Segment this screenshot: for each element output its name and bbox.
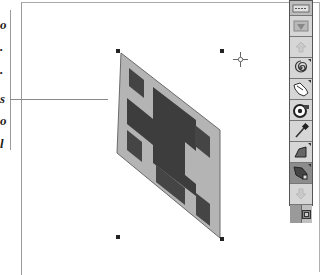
- camera-icon: [292, 102, 310, 118]
- submenu-indicator: [308, 80, 311, 83]
- scroll-down-tool[interactable]: [290, 184, 312, 205]
- submenu-indicator: [308, 59, 311, 62]
- submenu-indicator: [308, 164, 311, 167]
- lasso-select-icon: [293, 19, 309, 33]
- palette-title-icon: [290, 2, 312, 15]
- arrow-up-icon: [294, 40, 308, 54]
- swap-colors-icon: [302, 210, 311, 219]
- shape-icon: [293, 145, 309, 159]
- selection-handle-bottom-right[interactable]: [220, 237, 224, 241]
- selection-handle-bottom-left[interactable]: [116, 235, 120, 239]
- color-swatches[interactable]: [290, 205, 312, 223]
- eyedropper-tool[interactable]: [290, 121, 312, 142]
- palette-header[interactable]: [290, 1, 312, 16]
- lasso-select-tool[interactable]: [290, 16, 312, 37]
- distort-tool[interactable]: [290, 163, 312, 184]
- selection-handle-top-right[interactable]: [220, 49, 224, 53]
- foreground-color-swatch[interactable]: [290, 205, 302, 223]
- spiral-tool[interactable]: [290, 58, 312, 79]
- crosshair-cursor-icon: [233, 52, 248, 67]
- hand-tool[interactable]: [290, 79, 312, 100]
- camera-tool[interactable]: [290, 100, 312, 121]
- selection-handle-top-left[interactable]: [116, 49, 120, 53]
- background-color-swatch[interactable]: [302, 205, 313, 223]
- arrow-down-icon: [294, 187, 308, 201]
- scroll-up-tool[interactable]: [290, 37, 312, 58]
- eyedropper-icon: [293, 123, 309, 139]
- distort-icon: [292, 165, 310, 181]
- shape-tool[interactable]: [290, 142, 312, 163]
- tool-palette: [289, 0, 313, 206]
- submenu-indicator: [308, 143, 311, 146]
- hand-icon: [292, 81, 310, 97]
- spiral-icon: [293, 60, 309, 76]
